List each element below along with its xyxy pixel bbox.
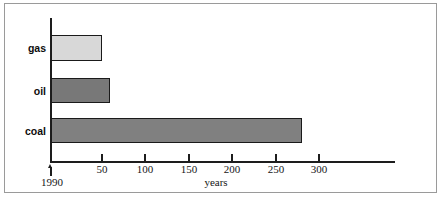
x-tick-label-50: 50 xyxy=(82,163,122,176)
x-tick-label-250: 250 xyxy=(256,163,296,176)
origin-year-label: 1990 xyxy=(32,176,72,188)
bar-label-coal: coal xyxy=(0,125,46,137)
x-tick-100 xyxy=(144,154,146,161)
bar-label-oil: oil xyxy=(0,85,46,97)
x-tick-label-100: 100 xyxy=(125,163,165,176)
x-tick-250 xyxy=(275,154,277,161)
x-tick-label-150: 150 xyxy=(169,163,209,176)
x-tick-label-300: 300 xyxy=(299,163,339,176)
x-tick-label-200: 200 xyxy=(212,163,252,176)
bar-gas xyxy=(51,35,102,61)
x-tick-150 xyxy=(188,154,190,161)
x-tick-300 xyxy=(318,154,320,161)
bar-chart: gas oil coal 50 100 150 200 250 300 1990… xyxy=(0,0,442,203)
bar-coal xyxy=(51,118,302,143)
x-axis-title: years xyxy=(186,176,246,188)
chart-screenshot: gas oil coal 50 100 150 200 250 300 1990… xyxy=(0,0,442,203)
x-tick-200 xyxy=(231,154,233,161)
origin-arrow-icon xyxy=(47,164,54,176)
bar-oil xyxy=(51,78,110,103)
bar-label-gas: gas xyxy=(0,42,46,54)
x-tick-50 xyxy=(101,154,103,161)
